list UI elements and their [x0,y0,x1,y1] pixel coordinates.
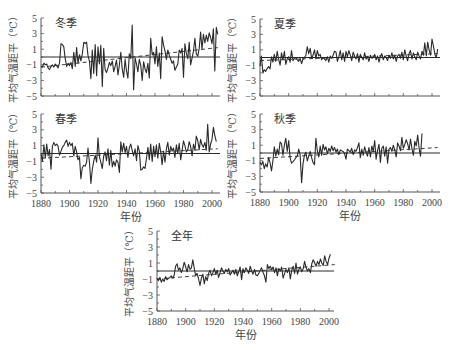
panel-title: 夏季 [274,18,296,30]
x-tick-label: 2000 [319,316,339,327]
x-tick-label: 2000 [202,198,222,209]
y-tick-label: 3 [32,28,37,39]
anomaly-series-line [157,254,330,285]
x-tick-label: 1880 [31,198,51,209]
y-tick-label: 3 [148,242,153,253]
y-tick-label: −1 [245,60,256,71]
y-axis-title: 平均气温距平（℃） [7,108,19,199]
y-tick-label: −3 [142,290,153,301]
y-tick-label: 1 [32,44,37,55]
x-tick-label: 1980 [393,197,413,208]
anomaly-series-line [260,134,422,183]
panel-spring: 531−1−3−51880190019201940196019802000年份平… [7,108,222,223]
y-tick-label: 3 [32,124,37,135]
panel-autumn: 531−1−3−51880190019201940196019802000年份平… [226,107,442,222]
y-tick-label: −5 [245,91,256,102]
x-tick-label: 1960 [262,316,282,327]
y-tick-label: −1 [142,274,153,285]
x-tick-label: 1900 [279,197,299,208]
y-tick-label: 3 [251,29,256,40]
y-tick-label: 1 [32,140,37,151]
y-tick-label: 5 [251,14,256,25]
x-tick-label: 1920 [88,198,108,209]
y-axis-title: 平均气温距平（℃） [7,11,19,102]
x-axis-title: 年份 [339,209,361,222]
y-tick-label: −3 [26,172,37,183]
y-tick-label: −3 [245,171,256,182]
y-tick-label: 1 [251,140,256,151]
y-tick-label: −1 [26,59,37,70]
panel-winter: 531−1−3−5平均气温距平（℃）冬季 [7,11,220,102]
panel-annual: 531−1−3−51880190019201940196019802000年份平… [123,225,339,341]
y-tick-label: −1 [26,156,37,167]
x-tick-label: 1940 [336,197,356,208]
y-tick-label: −5 [245,187,256,198]
x-axis-title: 年份 [120,210,142,223]
x-tick-label: 2000 [422,197,442,208]
panel-title: 春季 [55,113,77,125]
y-tick-label: −1 [245,155,256,166]
x-tick-label: 1900 [176,316,196,327]
panel-title: 冬季 [55,16,77,29]
x-tick-label: 1880 [250,197,270,208]
y-tick-label: −3 [245,75,256,86]
y-tick-label: −5 [26,188,37,199]
x-tick-label: 1960 [145,198,165,209]
y-tick-label: 1 [251,44,256,55]
anomaly-series-line [260,39,438,73]
panel-summer: 531−1−3−5平均气温距平（℃）夏季 [226,12,440,103]
y-tick-label: 5 [148,226,153,237]
y-tick-label: −5 [26,91,37,102]
panel-title: 全年 [171,229,193,242]
y-axis-title: 平均气温距平（℃） [226,107,238,198]
x-tick-label: 1980 [174,198,194,209]
y-tick-label: 3 [251,124,256,135]
y-tick-label: −5 [142,306,153,317]
y-axis-title: 平均气温距平（℃） [226,12,238,103]
y-tick-label: 5 [32,13,37,24]
y-axis-title: 平均气温距平（℃） [123,225,135,316]
x-tick-label: 1940 [233,316,253,327]
y-tick-label: 1 [148,258,153,269]
panel-title: 秋季 [274,112,296,125]
x-tick-label: 1980 [290,316,310,327]
x-tick-label: 1900 [60,198,80,209]
x-tick-label: 1880 [147,316,167,327]
climate-anomaly-figure: 531−1−3−5平均气温距平（℃）冬季531−1−3−5平均气温距平（℃）夏季… [0,0,452,350]
x-tick-label: 1960 [365,197,385,208]
x-axis-title: 年份 [235,328,257,341]
x-tick-label: 1920 [307,197,327,208]
x-tick-label: 1920 [204,316,224,327]
y-tick-label: 5 [32,109,37,120]
y-tick-label: −3 [26,75,37,86]
y-tick-label: 5 [251,109,256,120]
x-tick-label: 1940 [117,198,137,209]
